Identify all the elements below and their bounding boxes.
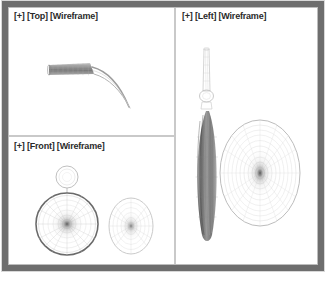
viewport-divider-horizontal[interactable] <box>8 135 174 137</box>
viewport-left-label: [+] [Left] [Wireframe] <box>182 11 266 22</box>
application-window: [+] [Top] [Wireframe] <box>2 1 324 271</box>
viewport-divider-vertical[interactable] <box>174 7 176 265</box>
viewport-left-wireframe <box>176 7 318 265</box>
viewport-top[interactable]: [+] [Top] [Wireframe] <box>8 7 174 135</box>
viewport-grid: [+] [Top] [Wireframe] <box>8 7 318 265</box>
viewport-front[interactable]: [+] [Front] [Wireframe] <box>8 137 174 265</box>
viewport-front-label: [+] [Front] [Wireframe] <box>14 141 105 152</box>
viewport-front-wireframe <box>8 137 174 265</box>
viewport-top-label: [+] [Top] [Wireframe] <box>14 11 98 22</box>
viewport-top-wireframe <box>8 7 174 135</box>
viewport-left[interactable]: [+] [Left] [Wireframe] <box>176 7 318 265</box>
